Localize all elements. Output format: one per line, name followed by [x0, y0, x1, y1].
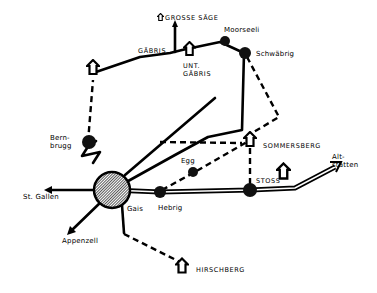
label-gais: Gais [127, 205, 143, 213]
bernbrugg-dot [82, 135, 96, 149]
railway-line [112, 162, 341, 192]
label-appenzell: Appenzell [62, 237, 98, 245]
label-st-gallen: St. Gallen [23, 193, 59, 201]
label-gaebris: GÄBRIS [138, 47, 166, 55]
sommersberg-house-icon [244, 132, 256, 146]
grosse-saege-house-icon [158, 14, 164, 21]
moorseeli-dot [220, 36, 230, 46]
egg-dot [188, 167, 198, 177]
label-unt-gaebris: UNT. GÄBRIS [183, 62, 211, 78]
label-schwaebrig: Schwäbrig [256, 50, 294, 58]
roads [50, 26, 244, 233]
unt-gaebris-house-icon [184, 42, 195, 55]
stations [82, 36, 257, 208]
stoss-dot [243, 183, 257, 197]
gaebris-house-icon [87, 60, 99, 74]
schwaebrig-dot [239, 47, 251, 59]
label-stoss: STOSS [256, 177, 280, 185]
gais-hub [94, 172, 130, 208]
label-grosse-saege: GROSSE SÄGE [165, 14, 218, 22]
label-hirschberg: HIRSCHBERG [196, 266, 245, 274]
label-bernbrugg: Bern- brugg [50, 134, 72, 150]
hebrig-dot [154, 186, 166, 198]
label-sommersberg: SOMMERSBERG [263, 142, 321, 150]
label-moorseeli: Moorseeli [224, 26, 259, 34]
label-egg: Egg [181, 157, 195, 165]
label-altstaetten: Alt- stätten [332, 153, 358, 169]
label-hebrig: Hebrig [158, 204, 182, 212]
